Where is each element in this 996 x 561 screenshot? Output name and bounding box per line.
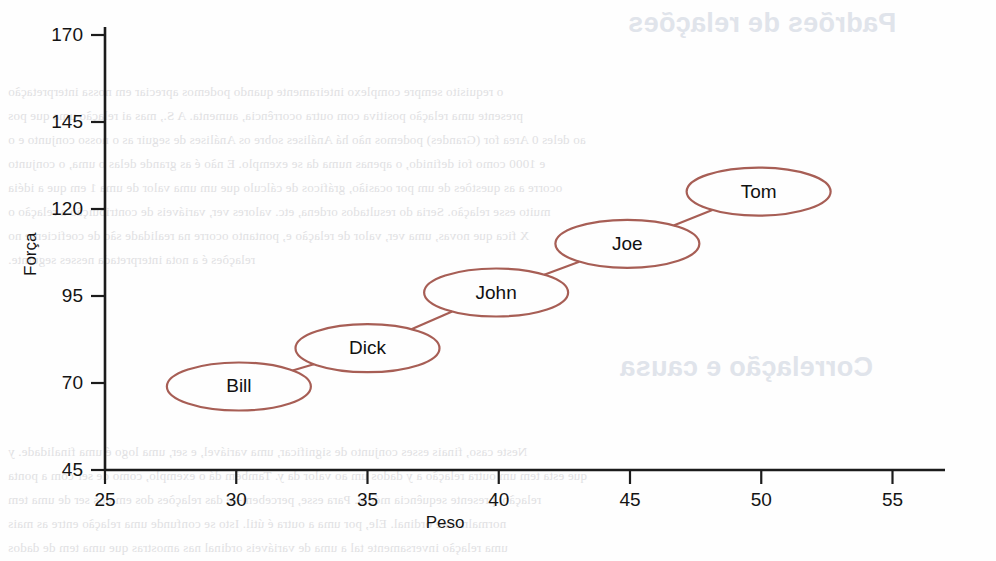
node-link-line: [544, 262, 579, 275]
chart-axes: [105, 27, 945, 470]
data-node: Joe: [555, 220, 699, 268]
node-label-text: Tom: [741, 181, 777, 202]
data-node: John: [424, 269, 568, 317]
x-tick-label: 40: [488, 489, 509, 510]
x-tick-label: 25: [94, 489, 115, 510]
y-tick-label: 95: [62, 285, 83, 306]
chart-container: 45709512014517025303540455055 BillDickJo…: [0, 0, 996, 561]
x-tick-label: 35: [357, 489, 378, 510]
y-tick-label: 70: [62, 372, 83, 393]
data-node: Dick: [296, 324, 440, 372]
data-node: Tom: [687, 168, 831, 216]
x-tick-label: 55: [882, 489, 903, 510]
y-tick-label: 45: [62, 459, 83, 480]
node-label-text: Bill: [226, 375, 251, 396]
node-label-text: Joe: [612, 233, 643, 254]
node-label-text: Dick: [349, 337, 386, 358]
node-link-line: [411, 312, 452, 330]
x-tick-label: 45: [619, 489, 640, 510]
x-tick-label: 50: [751, 489, 772, 510]
node-link-line: [293, 364, 314, 370]
y-tick-label: 170: [51, 24, 83, 45]
chart-ticks: 45709512014517025303540455055: [51, 24, 903, 510]
node-link-line: [674, 210, 713, 225]
y-axis-title: Força: [21, 232, 40, 276]
y-tick-label: 145: [51, 111, 83, 132]
y-tick-label: 120: [51, 198, 83, 219]
x-tick-label: 30: [226, 489, 247, 510]
chart-nodes: BillDickJohnJoeTom: [167, 168, 831, 411]
node-label-text: John: [476, 282, 517, 303]
x-axis-title: Peso: [426, 513, 465, 532]
data-node: Bill: [167, 362, 311, 410]
scatter-chart: 45709512014517025303540455055 BillDickJo…: [0, 0, 996, 561]
